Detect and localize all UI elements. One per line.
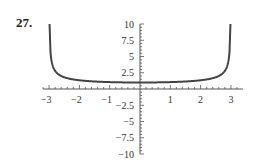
- x-tick-label: −2: [71, 94, 82, 105]
- y-tick-label: −5: [123, 116, 134, 127]
- function-plot: −3−2−1123107.552.5−2.5−5−7.5−10: [0, 0, 254, 165]
- y-tick-label: 2.5: [122, 67, 135, 78]
- y-tick-label: 7.5: [122, 35, 135, 46]
- y-tick-label: −10: [118, 149, 134, 160]
- y-tick-label: −7.5: [116, 132, 134, 143]
- x-tick-label: 3: [228, 94, 233, 105]
- x-tick-label: 2: [198, 94, 203, 105]
- x-tick-label: 1: [168, 94, 173, 105]
- x-tick-label: −1: [101, 94, 112, 105]
- y-tick-label: 10: [124, 19, 134, 30]
- y-tick-label: −2.5: [116, 100, 134, 111]
- x-tick-label: −3: [41, 94, 52, 105]
- y-tick-label: 5: [129, 51, 134, 62]
